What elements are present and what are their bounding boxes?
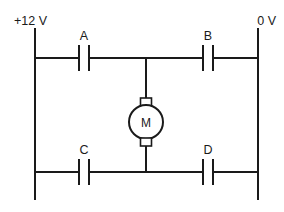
- switch-b-label: B: [204, 29, 212, 43]
- circuit-diagram-canvas: +12 V 0 V A B C D M: [0, 0, 284, 212]
- supply-voltage-label: +12 V: [14, 14, 48, 28]
- motor-terminal-bottom-icon: [141, 138, 152, 146]
- switch-d-label: D: [203, 143, 212, 157]
- switch-a-label: A: [80, 29, 89, 43]
- motor-label: M: [141, 116, 151, 130]
- ground-voltage-label: 0 V: [257, 14, 276, 28]
- switch-c-label: C: [79, 143, 88, 157]
- circuit-schematic: +12 V 0 V A B C D M: [0, 0, 284, 212]
